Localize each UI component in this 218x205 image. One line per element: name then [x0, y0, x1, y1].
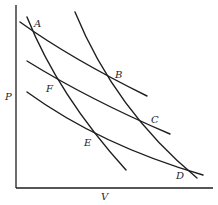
point-label-e: E: [83, 137, 92, 148]
adiabat-left: [27, 17, 126, 170]
isotherm-bottom: [27, 92, 203, 175]
point-label-f: F: [45, 83, 54, 94]
point-label-c: C: [151, 114, 159, 125]
x-axis-label: V: [101, 191, 110, 202]
axes: [16, 5, 213, 188]
point-label-a: A: [33, 18, 41, 29]
adiabat-right: [75, 12, 197, 178]
point-label-b: B: [114, 69, 122, 80]
isotherm-middle: [27, 61, 170, 134]
point-label-d: D: [175, 170, 184, 181]
pv-diagram: A B C D E F P V: [0, 0, 218, 205]
y-axis-label: P: [4, 91, 12, 102]
